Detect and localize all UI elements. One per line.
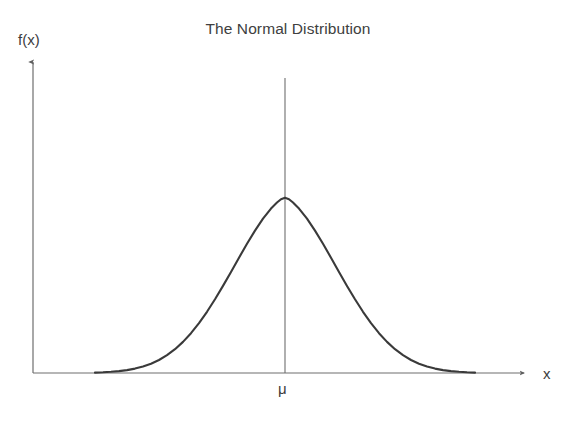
x-axis-label: x	[543, 366, 551, 381]
mean-tick-label: μ	[278, 381, 287, 396]
plot-canvas	[0, 0, 576, 421]
normal-distribution-figure: The Normal Distribution f(x) x μ	[0, 0, 576, 421]
chart-title: The Normal Distribution	[0, 21, 576, 37]
y-axis-label: f(x)	[18, 32, 40, 47]
